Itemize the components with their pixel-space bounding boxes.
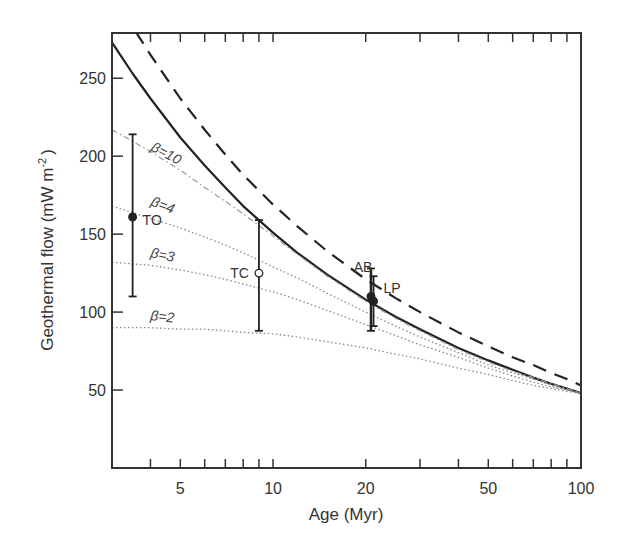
y-tick-label: 100 — [79, 304, 106, 321]
x-tick-label: 50 — [479, 480, 497, 497]
series-beta-4-line — [112, 206, 581, 393]
point-marker — [255, 269, 263, 277]
plot-frame — [112, 33, 581, 468]
point-marker — [370, 297, 378, 305]
x-axis-title: Age (Myr) — [309, 505, 384, 524]
curves — [112, 0, 581, 393]
series-solid-line — [112, 42, 581, 393]
data-point-to: TO — [129, 134, 162, 296]
geothermal-flow-chart: TOTCABLP β=10β=4β=3β=2 51020501005010015… — [0, 0, 628, 554]
point-label: TC — [230, 265, 249, 281]
x-tick-label: 5 — [176, 480, 185, 497]
series-beta-10-line — [112, 130, 581, 394]
curve-labels: β=10β=4β=3β=2 — [148, 138, 185, 325]
y-axis-title: Geothermal flow (mW m-2) — [36, 149, 57, 351]
series-beta-3-line — [112, 262, 581, 393]
y-tick-label: 250 — [79, 70, 106, 87]
x-tick-label: 100 — [568, 480, 595, 497]
point-label: AB — [354, 259, 373, 275]
data-point-tc: TC — [230, 220, 263, 331]
y-tick-label: 200 — [79, 148, 106, 165]
x-tick-label: 20 — [357, 480, 375, 497]
x-tick-label: 10 — [264, 480, 282, 497]
series-dashed-line — [112, 0, 581, 385]
beta-label: β=10 — [148, 138, 185, 168]
point-label: LP — [384, 280, 401, 296]
point-marker — [129, 213, 137, 221]
y-tick-label: 150 — [79, 226, 106, 243]
series-beta-2-line — [112, 328, 581, 394]
point-label: TO — [143, 212, 162, 228]
axis-ticks: 510205010050100150200250 — [79, 33, 594, 497]
beta-label: β=3 — [148, 244, 176, 265]
y-tick-label: 50 — [88, 382, 106, 399]
beta-label: β=2 — [149, 307, 176, 326]
data-points: TOTCABLP — [129, 134, 401, 330]
